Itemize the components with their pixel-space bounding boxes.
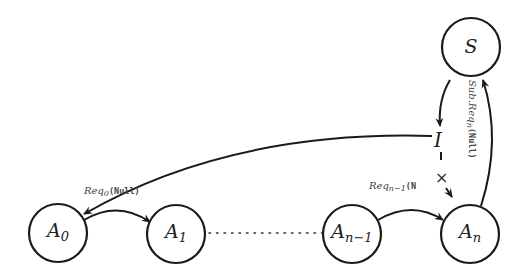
edge-a0-a1-label: Req0(Null) (84, 186, 140, 198)
blocked-cross-icon: × (435, 170, 448, 186)
edge-an-1-an (378, 210, 443, 220)
edge-s-i (440, 80, 450, 126)
edge-i-an-blocked-head (446, 188, 452, 197)
node-an-1-label: An−1 (331, 222, 372, 244)
edge-an-s-label: Sub.Reqn(Null) (465, 80, 477, 159)
intermediate-i-label: I (434, 130, 442, 150)
edge-a0-a1 (84, 210, 150, 222)
node-s-label: S (464, 37, 477, 56)
node-an-label: An (459, 222, 481, 244)
diagram-canvas (0, 0, 528, 279)
edge-an-1-an-label: Reqn−1(N (369, 181, 416, 193)
node-a0-label: A0 (47, 221, 69, 243)
edge-i-a0 (84, 136, 432, 214)
node-a1-label: A1 (165, 222, 187, 244)
edge-an-s (481, 80, 492, 206)
protocol-diagram: A0 A1 An−1 An S I × Req0(Null) Reqn−1(N … (0, 0, 528, 279)
